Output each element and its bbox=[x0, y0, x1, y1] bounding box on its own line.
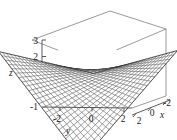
z-tick-label-neg1: -1 bbox=[30, 102, 38, 112]
y-axis-label: y bbox=[65, 126, 71, 136]
x-axis-label: x bbox=[159, 110, 165, 120]
x-tick-label-0: 0 bbox=[150, 108, 155, 118]
x-axis: 2 0 -2 x bbox=[132, 98, 171, 126]
y-tick-label-0: 0 bbox=[89, 114, 94, 124]
y-tick-label-neg2: -2 bbox=[53, 114, 61, 124]
box-floor-right-edge bbox=[132, 96, 166, 108]
x-tick-label-neg2: -2 bbox=[163, 98, 171, 108]
y-tick-label-2: 2 bbox=[121, 114, 126, 124]
plot-canvas: 3 2 1 0 -1 z -2 0 2 y bbox=[0, 0, 177, 140]
surface-plot-figure: 3 2 1 0 -1 z -2 0 2 y bbox=[0, 0, 177, 140]
x-tick-label-2: 2 bbox=[137, 116, 142, 126]
z-tick-label-3: 3 bbox=[33, 36, 38, 46]
